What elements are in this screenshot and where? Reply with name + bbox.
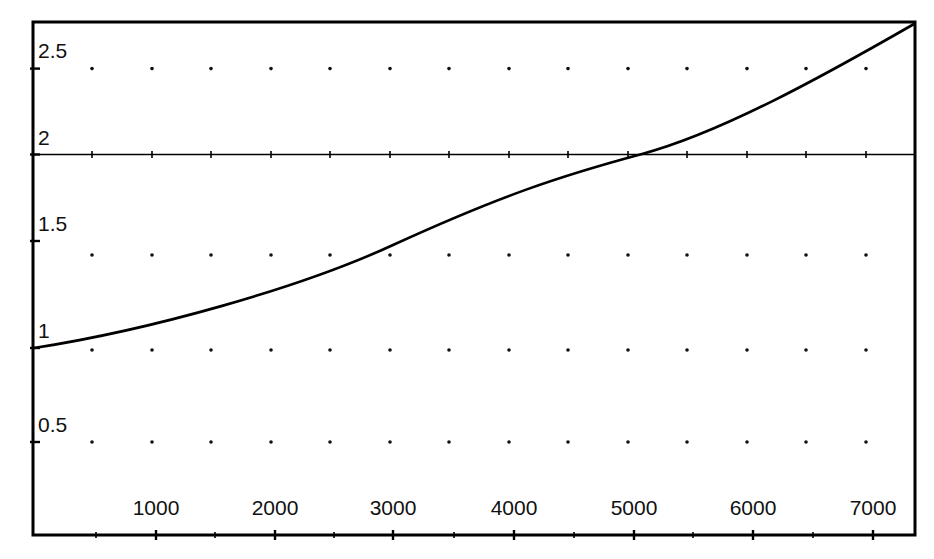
screenshot-root: 2.5 2 1.5 1 0.5 1000 2000 3000 4000 5000… <box>0 0 934 559</box>
x-tick-label-7000: 7000 <box>833 497 913 518</box>
chart-canvas <box>0 0 934 559</box>
x-tick-label-2000: 2000 <box>235 497 315 518</box>
y-tick-label-2: 2 <box>38 127 50 148</box>
y-tick-label-2_5: 2.5 <box>38 40 67 61</box>
line-chart-figure: 2.5 2 1.5 1 0.5 1000 2000 3000 4000 5000… <box>0 0 934 559</box>
plot-area-frame <box>33 22 915 535</box>
x-tick-label-3000: 3000 <box>353 497 433 518</box>
x-tick-label-4000: 4000 <box>474 497 554 518</box>
y-tick-label-1: 1 <box>38 320 50 341</box>
x-tick-label-5000: 5000 <box>594 497 674 518</box>
x-tick-label-1000: 1000 <box>116 497 196 518</box>
y-tick-label-1_5: 1.5 <box>38 213 67 234</box>
x-tick-label-6000: 6000 <box>713 497 793 518</box>
y-tick-label-0_5: 0.5 <box>38 414 67 435</box>
